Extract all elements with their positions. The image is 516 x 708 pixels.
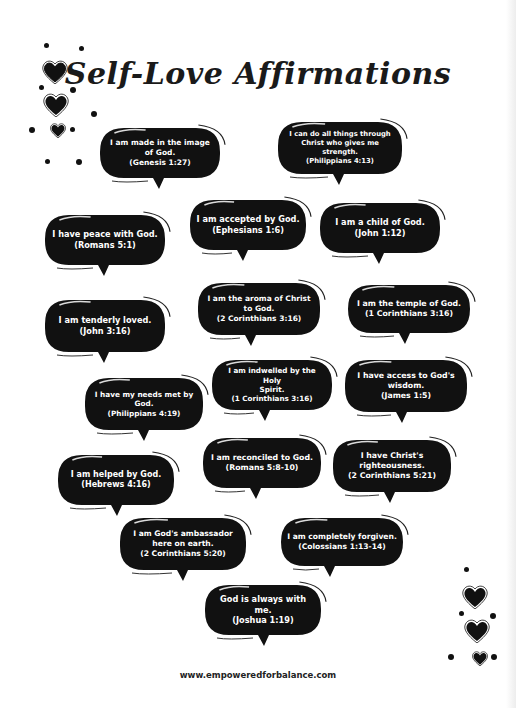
affirmation-line: Christ who gives me strength. — [284, 139, 396, 157]
heart-icon — [464, 619, 490, 643]
heart-icon — [42, 60, 68, 84]
dot — [70, 127, 75, 132]
affirmation-bubble: I am helped by God.(Hebrews 4:16) — [58, 455, 174, 517]
affirmation-line: to God. — [244, 304, 275, 314]
affirmation-bubble: I am God's ambassadorhere on earth.(2 Co… — [120, 518, 246, 582]
dot — [459, 611, 464, 616]
heart-icon — [50, 123, 66, 138]
affirmation-text: I can do all things throughChrist who gi… — [284, 122, 396, 174]
affirmation-text: I am tenderly loved.(John 3:16) — [51, 300, 159, 352]
affirmation-bubble: I am made in the imageof God.(Genesis 1:… — [100, 128, 220, 190]
heart-decoration-top-left — [20, 35, 100, 170]
scripture-reference: (Colossians 1:13-14) — [298, 542, 386, 552]
scripture-reference: (1 Corinthians 3:16) — [231, 394, 312, 403]
affirmation-line: I am the aroma of Christ — [207, 294, 310, 304]
affirmation-line: I am indwelled by the Holy — [218, 366, 326, 385]
affirmation-line: God is always with me. — [211, 594, 315, 615]
affirmation-bubble: I can do all things throughChrist who gi… — [278, 122, 402, 186]
affirmation-line: I am helped by God. — [71, 470, 161, 480]
scripture-reference: (2 Corinthians 3:16) — [217, 314, 302, 324]
affirmation-text: I have peace with God.(Romans 5:1) — [51, 215, 159, 265]
dot — [39, 85, 44, 90]
scripture-reference: (2 Corinthians 5:21) — [348, 471, 436, 481]
affirmation-line: I have Christ's — [361, 451, 424, 461]
scripture-reference: (Ephesians 1:6) — [212, 225, 284, 236]
affirmation-line: wisdom. — [388, 381, 425, 391]
affirmation-line: righteousness. — [359, 461, 424, 471]
affirmation-line: I have peace with God. — [52, 229, 157, 240]
heart-icon — [472, 651, 488, 666]
affirmation-text: I am made in the imageof God.(Genesis 1:… — [106, 128, 214, 178]
affirmation-bubble: I am the aroma of Christto God.(2 Corint… — [198, 283, 320, 347]
dot — [44, 43, 49, 48]
affirmation-line: I am completely forgiven. — [287, 532, 397, 542]
affirmation-bubble: I have my needs met byGod.(Philippians 4… — [85, 378, 203, 442]
affirmation-text: I am completely forgiven.(Colossians 1:1… — [287, 518, 397, 566]
scripture-reference: (John 3:16) — [79, 326, 130, 337]
affirmation-line: I am the temple of God. — [357, 299, 461, 309]
affirmation-text: I am reconciled to God.(Romans 5:8-10) — [209, 438, 315, 488]
scripture-reference: (Philippians 4:13) — [306, 157, 374, 166]
footer-website: www.empoweredforbalance.com — [0, 670, 516, 680]
scripture-reference: (Genesis 1:27) — [129, 158, 190, 168]
scripture-reference: (John 1:12) — [354, 228, 405, 239]
dot — [464, 567, 469, 572]
affirmation-line: I am God's ambassador — [133, 529, 233, 539]
affirmation-text: I am helped by God.(Hebrews 4:16) — [64, 455, 168, 505]
affirmation-bubble: I have Christ'srighteousness.(2 Corinthi… — [333, 440, 451, 504]
dot — [91, 111, 97, 117]
scripture-reference: (2 Corinthians 5:20) — [140, 549, 226, 559]
dot — [29, 127, 35, 133]
scripture-reference: (James 1:5) — [381, 391, 431, 401]
dot — [76, 159, 82, 165]
dot — [70, 87, 76, 93]
affirmation-line: of God. — [145, 148, 176, 158]
affirmation-line: I am made in the image — [110, 138, 210, 148]
scripture-reference: (1 Corinthians 3:16) — [365, 309, 453, 319]
affirmation-bubble: I am tenderly loved.(John 3:16) — [45, 300, 165, 364]
dot — [491, 654, 497, 660]
affirmation-text: I have my needs met byGod.(Philippians 4… — [91, 378, 197, 430]
dot — [448, 654, 454, 660]
affirmation-line: I am a child of God. — [335, 217, 425, 228]
affirmation-bubble: I am reconciled to God.(Romans 5:8-10) — [203, 438, 321, 500]
dot — [490, 613, 496, 619]
affirmation-text: God is always with me.(Joshua 1:19) — [211, 585, 315, 635]
affirmation-text: I have Christ'srighteousness.(2 Corinthi… — [339, 440, 445, 492]
scripture-reference: (Romans 5:1) — [74, 240, 136, 251]
affirmation-bubble: I am completely forgiven.(Colossians 1:1… — [281, 518, 403, 578]
affirmation-line: I am accepted by God. — [197, 214, 300, 225]
scripture-reference: (Joshua 1:19) — [232, 615, 293, 626]
affirmation-line: I am tenderly loved. — [59, 315, 152, 326]
affirmation-line: I can do all things through — [289, 130, 390, 139]
affirmation-text: I have access to God'swisdom.(James 1:5) — [351, 360, 461, 412]
affirmation-line: I have my needs met by — [95, 390, 193, 399]
affirmation-bubble: I have access to God'swisdom.(James 1:5) — [345, 360, 467, 424]
affirmation-bubble: I am the temple of God.(1 Corinthians 3:… — [348, 285, 470, 345]
affirmation-text: I am indwelled by the HolySpirit.(1 Cori… — [218, 360, 326, 410]
scripture-reference: (Hebrews 4:16) — [81, 480, 150, 490]
affirmation-line: here on earth. — [152, 539, 213, 549]
dot — [45, 159, 50, 164]
scripture-reference: (Philippians 4:19) — [108, 409, 181, 418]
scripture-reference: (Romans 5:8-10) — [226, 463, 299, 473]
affirmation-bubble: I am a child of God.(John 1:12) — [320, 203, 440, 265]
affirmation-bubble: God is always with me.(Joshua 1:19) — [205, 585, 321, 647]
affirmation-text: I am God's ambassadorhere on earth.(2 Co… — [126, 518, 240, 570]
affirmation-text: I am the aroma of Christto God.(2 Corint… — [204, 283, 314, 335]
affirmation-line: I have access to God's — [357, 371, 454, 381]
affirmation-text: I am the temple of God.(1 Corinthians 3:… — [354, 285, 464, 333]
affirmation-line: Spirit. — [260, 385, 285, 394]
affirmation-line: I am reconciled to God. — [211, 453, 313, 463]
affirmation-text: I am accepted by God.(Ephesians 1:6) — [196, 200, 300, 250]
heart-icon — [43, 93, 69, 117]
affirmation-bubble: I am accepted by God.(Ephesians 1:6) — [190, 200, 306, 262]
affirmation-bubble: I have peace with God.(Romans 5:1) — [45, 215, 165, 277]
dot — [79, 46, 84, 51]
affirmation-bubble: I am indwelled by the HolySpirit.(1 Cori… — [212, 360, 332, 422]
affirmation-text: I am a child of God.(John 1:12) — [326, 203, 434, 253]
heart-icon — [462, 585, 488, 609]
affirmation-line: God. — [135, 399, 154, 408]
